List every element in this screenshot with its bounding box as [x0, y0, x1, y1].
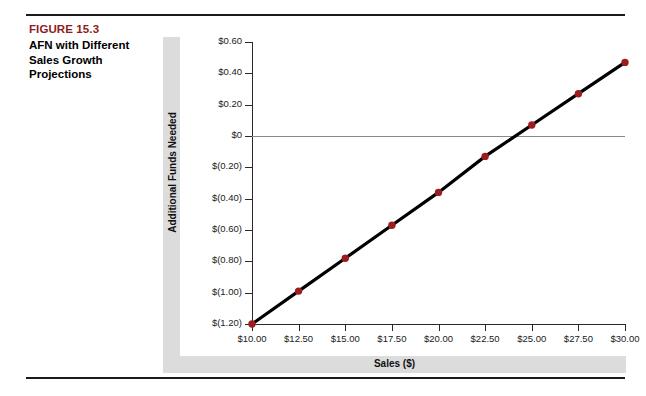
y-axis-title: Additional Funds Needed — [167, 61, 178, 285]
figure-number: FIGURE 15.3 — [29, 22, 159, 37]
top-rule — [26, 14, 625, 16]
data-point — [342, 255, 349, 262]
x-axis-title-band: Sales ($) — [163, 356, 626, 373]
data-series — [181, 37, 626, 356]
plot-area: $0.60$0.40$0.20$0$(0.20)$(0.40)$(0.60)$(… — [181, 37, 626, 356]
chart-figure: Additional Funds Needed Sales ($) $0.60$… — [163, 37, 626, 373]
x-axis-title: Sales ($) — [163, 358, 626, 369]
data-point — [388, 222, 395, 229]
data-point — [575, 90, 582, 97]
data-point — [435, 189, 442, 196]
data-point — [295, 287, 302, 294]
figure-caption: FIGURE 15.3 AFN with Different Sales Gro… — [29, 22, 159, 82]
data-point — [528, 121, 535, 128]
data-point — [248, 320, 255, 327]
data-point — [621, 59, 628, 66]
figure-title: AFN with Different Sales Growth Projecti… — [29, 38, 159, 82]
bottom-rule — [26, 377, 625, 379]
data-point — [481, 153, 488, 160]
